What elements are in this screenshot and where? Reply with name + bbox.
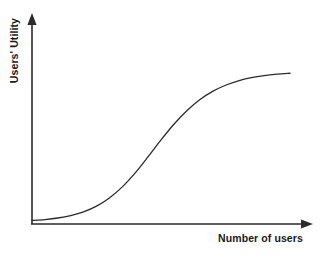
chart-background: [0, 0, 329, 255]
figure-container: Users' Utility Number of users: [0, 0, 329, 255]
sigmoid-curve-chart: [0, 0, 329, 255]
y-axis-label: Users' Utility: [8, 18, 20, 83]
x-axis-label: Number of users: [218, 232, 303, 244]
